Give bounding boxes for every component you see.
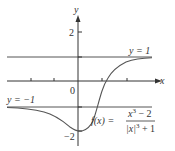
y-tick-label-neg2: −2 [64, 131, 75, 142]
function-lhs: f(x) = [91, 115, 114, 127]
function-graph: y x 2 0 −2 y = 1 y = −1 f(x) = x3 − 2 |x… [0, 0, 175, 151]
y-tick-label-2: 2 [69, 27, 74, 38]
y-axis-label: y [73, 4, 79, 15]
asymptote-label-lower: y = −1 [6, 94, 35, 105]
num-rest: − 2 [136, 108, 152, 119]
function-numerator: x3 − 2 [127, 107, 152, 119]
y-axis-arrow-icon [76, 15, 81, 22]
origin-label: 0 [70, 85, 75, 96]
den-base: |x| [126, 123, 136, 134]
asym-upper-text: y = 1 [128, 45, 150, 56]
asym-lower-text: y = −1 [6, 94, 35, 105]
x-axis-label: x [159, 75, 165, 86]
den-rest: + 1 [139, 123, 155, 134]
asymptote-label-upper: y = 1 [128, 45, 150, 56]
function-denominator: |x|3 + 1 [126, 122, 155, 134]
